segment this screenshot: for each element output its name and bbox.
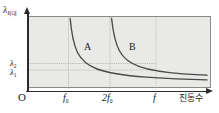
f0-subscript: 0 — [66, 98, 69, 104]
x-axis — [26, 91, 208, 93]
y-axis-label: λ최대 — [3, 6, 17, 16]
x-axis-arrow-icon — [206, 88, 213, 94]
plot-area — [27, 16, 211, 88]
x-tick-label-f: f — [153, 93, 156, 103]
curve-label-a: A — [84, 42, 91, 52]
x-tick-label-2f0: 2f0 — [102, 93, 113, 105]
curve-label-b: B — [129, 42, 136, 52]
physics-wavelength-frequency-chart: λ최대 λ2 λ1 O f0 2f0 f 진동수 A B — [0, 0, 219, 113]
y-tick-label-lambda1: λ1 — [10, 68, 16, 79]
lambda1-subscript: 1 — [14, 72, 17, 78]
y-axis — [27, 13, 29, 92]
two-f0-subscript: 0 — [110, 98, 113, 104]
y-axis-arrow-icon — [24, 7, 30, 14]
x-axis-label: 진동수 — [179, 94, 203, 103]
two-f0-symbol: 2f — [102, 92, 110, 103]
x-tick-label-f0: f0 — [63, 93, 69, 105]
y-axis-label-subscript: 최대 — [7, 10, 17, 16]
origin-label: O — [18, 92, 26, 103]
